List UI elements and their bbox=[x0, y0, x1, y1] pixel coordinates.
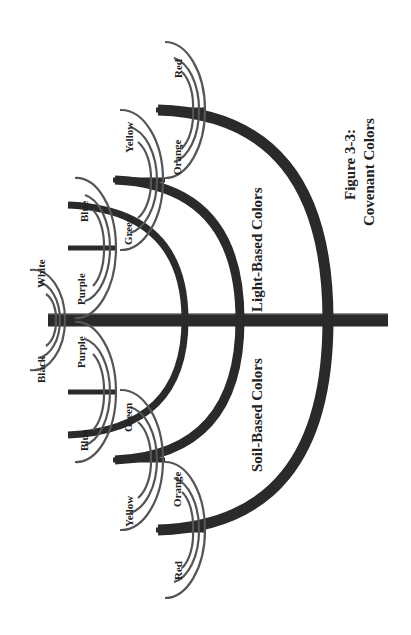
label-soil-red: Red bbox=[172, 561, 184, 580]
label-soil-yellow: Yellow bbox=[123, 496, 135, 527]
label-soil-green: Green bbox=[122, 403, 134, 432]
label-soil-purple: Purple bbox=[75, 336, 87, 368]
label-light-green: Green bbox=[122, 216, 134, 245]
caption-line-1: Figure 3-3: bbox=[342, 129, 358, 200]
label-light-red: Red bbox=[172, 59, 184, 78]
label-light-white: White bbox=[35, 259, 47, 288]
label-light-purple: Purple bbox=[75, 273, 87, 305]
label-soil-black: Black bbox=[35, 355, 47, 383]
label-light-yellow: Yellow bbox=[123, 122, 135, 153]
label-soil-orange: Orange bbox=[171, 471, 183, 507]
label-light-blue: Blue bbox=[78, 200, 90, 222]
caption-line-2: Covenant Colors bbox=[361, 118, 377, 226]
covenant-colors-diagram: White Purple Blue Green Yellow Orange Re… bbox=[0, 0, 411, 635]
group-label-soil: Soil-Based Colors bbox=[249, 358, 265, 472]
main-stem bbox=[48, 314, 388, 320]
label-soil-blue: Blue bbox=[78, 429, 90, 451]
group-label-light: Light-Based Colors bbox=[249, 187, 265, 312]
figure-caption: Figure 3-3: Covenant Colors bbox=[342, 118, 377, 226]
label-light-orange: Orange bbox=[171, 139, 183, 175]
